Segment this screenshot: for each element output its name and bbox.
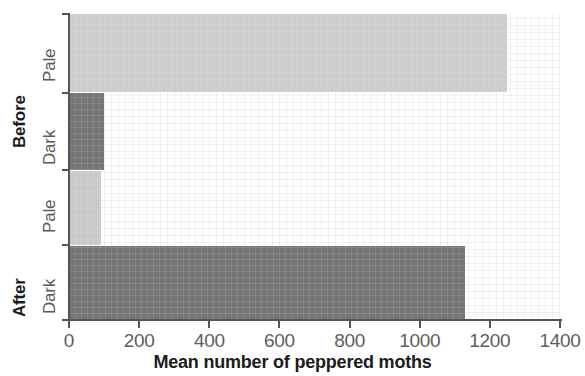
x-tick bbox=[349, 321, 351, 328]
x-tick bbox=[68, 321, 70, 328]
x-tick-label: 1200 bbox=[469, 330, 510, 352]
peppered-moths-bar-chart: Before After Pale Dark Pale Dark 0200400… bbox=[0, 0, 585, 376]
x-tick-label: 200 bbox=[124, 330, 155, 352]
x-tick-label: 0 bbox=[64, 330, 74, 352]
x-tick-label: 1000 bbox=[399, 330, 440, 352]
x-tick bbox=[208, 321, 210, 328]
bar-before-dark bbox=[69, 93, 104, 170]
x-tick bbox=[489, 321, 491, 328]
bar-after-pale bbox=[69, 171, 101, 245]
x-tick-label: 600 bbox=[264, 330, 295, 352]
x-tick bbox=[559, 321, 561, 328]
bar-before-pale bbox=[69, 14, 507, 92]
category-label-before-pale: Pale bbox=[40, 49, 60, 82]
x-tick bbox=[278, 321, 280, 328]
group-label-before: Before bbox=[10, 95, 30, 148]
y-tick bbox=[62, 13, 69, 15]
y-tick bbox=[62, 169, 69, 171]
x-tick-label: 800 bbox=[334, 330, 365, 352]
y-axis-line bbox=[68, 13, 70, 321]
bar-after-dark bbox=[69, 246, 465, 320]
y-tick bbox=[62, 244, 69, 246]
x-axis-title: Mean number of peppered moths bbox=[0, 352, 585, 373]
category-label-after-pale: Pale bbox=[40, 200, 60, 233]
x-tick-label: 400 bbox=[194, 330, 225, 352]
x-tick bbox=[419, 321, 421, 328]
plot-area bbox=[69, 14, 560, 320]
category-label-before-dark: Dark bbox=[40, 130, 60, 165]
group-label-after: After bbox=[10, 278, 30, 317]
y-tick bbox=[62, 92, 69, 94]
x-tick bbox=[138, 321, 140, 328]
x-tick-label: 1400 bbox=[539, 330, 580, 352]
category-label-after-dark: Dark bbox=[40, 279, 60, 314]
